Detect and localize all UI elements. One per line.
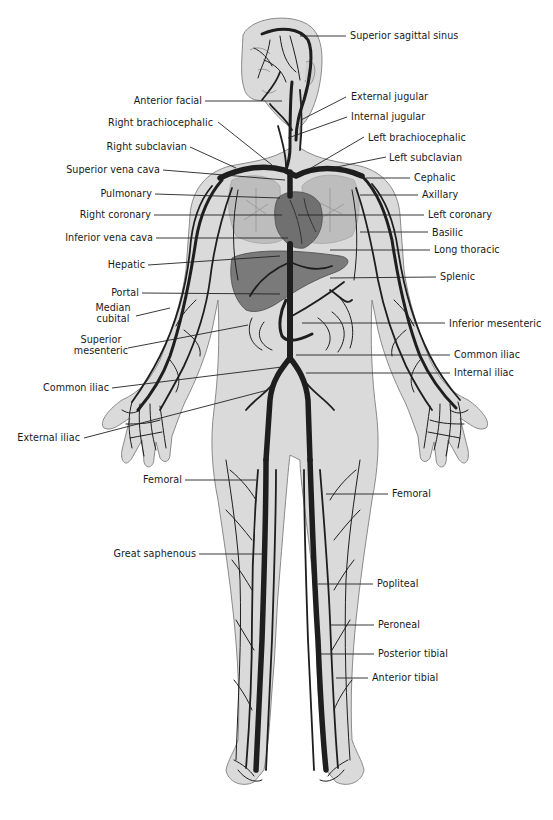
label-pulmonary: Pulmonary bbox=[100, 188, 152, 199]
label-femoral-left: Femoral bbox=[143, 474, 182, 485]
label-right-brachiocephalic: Right brachiocephalic bbox=[108, 117, 213, 128]
label-left-subclavian: Left subclavian bbox=[389, 152, 462, 163]
label-common-iliac-left: Common iliac bbox=[454, 349, 520, 360]
label-superior-vena-cava: Superior vena cava bbox=[66, 164, 160, 175]
label-popliteal: Popliteal bbox=[377, 578, 418, 589]
label-hepatic: Hepatic bbox=[108, 259, 145, 270]
label-common-iliac-right: Common iliac bbox=[43, 382, 109, 393]
label-right-subclavian: Right subclavian bbox=[107, 141, 187, 152]
label-portal: Portal bbox=[111, 287, 139, 298]
label-anterior-facial: Anterior facial bbox=[134, 95, 202, 106]
label-cephalic: Cephalic bbox=[414, 172, 456, 183]
label-superior-sagittal-sinus: Superior sagittal sinus bbox=[350, 30, 458, 41]
label-posterior-tibial: Posterior tibial bbox=[378, 648, 448, 659]
label-external-iliac: External iliac bbox=[17, 432, 80, 443]
label-superior-mesenteric: Superior mesenteric bbox=[72, 334, 130, 356]
label-splenic: Splenic bbox=[440, 271, 475, 282]
label-external-jugular: External jugular bbox=[351, 91, 428, 102]
label-long-thoracic: Long thoracic bbox=[434, 244, 500, 255]
label-basilic: Basilic bbox=[432, 227, 463, 238]
label-internal-jugular: Internal jugular bbox=[351, 111, 425, 122]
venous-system-illustration: .skin { fill: #dadada; stroke: #8a8a8a; … bbox=[0, 0, 553, 820]
label-anterior-tibial: Anterior tibial bbox=[372, 672, 438, 683]
label-femoral-right: Femoral bbox=[392, 488, 431, 499]
label-great-saphenous: Great saphenous bbox=[114, 548, 197, 559]
label-median-cubital: Median cubital bbox=[88, 302, 138, 324]
label-internal-iliac: Internal iliac bbox=[454, 367, 514, 378]
label-right-coronary: Right coronary bbox=[80, 209, 151, 220]
label-left-brachiocephalic: Left brachiocephalic bbox=[368, 132, 466, 143]
label-inferior-mesenteric: Inferior mesenteric bbox=[449, 318, 541, 329]
label-inferior-vena-cava: Inferior vena cava bbox=[65, 232, 153, 243]
label-peroneal: Peroneal bbox=[378, 619, 420, 630]
label-axillary: Axillary bbox=[422, 189, 458, 200]
label-left-coronary: Left coronary bbox=[428, 209, 492, 220]
